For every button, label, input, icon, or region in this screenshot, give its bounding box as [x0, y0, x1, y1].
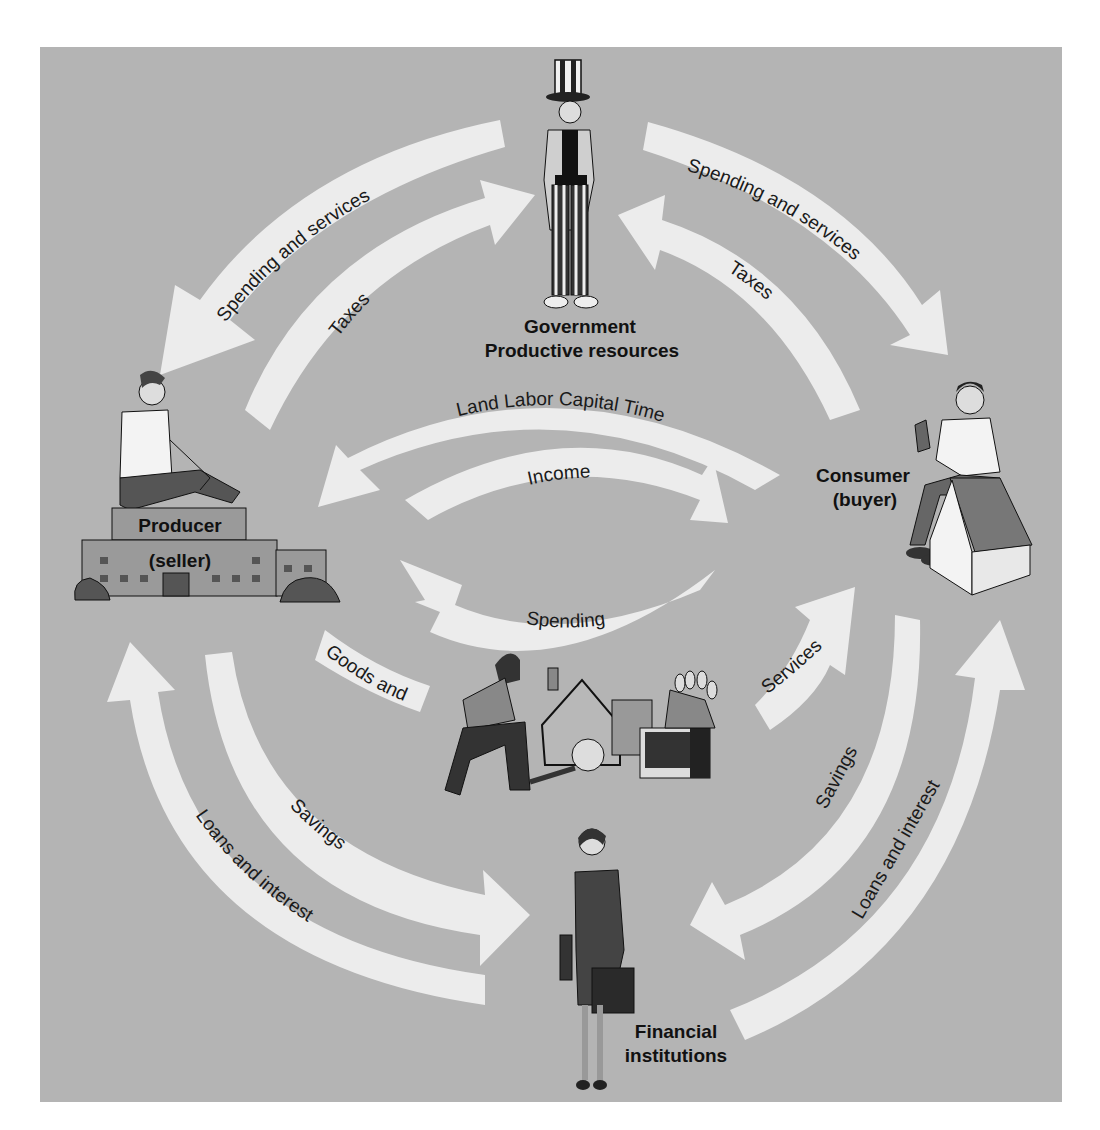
producer-label: Producer [138, 515, 222, 536]
seller-label: (seller) [149, 550, 211, 571]
consumer-label: Consumer [816, 465, 911, 486]
buyer-label: (buyer) [833, 489, 897, 510]
arrow-income [405, 448, 728, 523]
producer-figure-icon [120, 371, 240, 510]
arrow-gov-to-producer [160, 120, 505, 375]
financial-figure-icon [560, 828, 634, 1090]
productive-resources-label: Productive resources [485, 340, 679, 361]
consumer-house-icon [930, 478, 1032, 595]
arrow-spending [400, 560, 715, 651]
circular-flow-diagram: Spending and services Taxes Spending and… [0, 0, 1100, 1130]
worker-with-goods-icon [445, 654, 717, 795]
government-label: Government [524, 316, 637, 337]
label-spending: Spending [525, 607, 606, 631]
financial-label: Financial [635, 1021, 717, 1042]
government-figure-icon [544, 60, 598, 308]
institutions-label: institutions [625, 1045, 727, 1066]
